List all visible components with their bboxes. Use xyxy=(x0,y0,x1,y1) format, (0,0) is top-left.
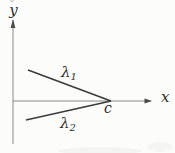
lambda2-subscript: 2 xyxy=(69,122,76,133)
figure-background xyxy=(0,0,175,153)
point-c-label: c xyxy=(104,100,112,116)
scan-smudge-corner xyxy=(147,142,173,152)
lambda1-subscript: 1 xyxy=(71,71,77,82)
x-axis-label: x xyxy=(161,88,170,106)
y-axis-label: y xyxy=(8,1,18,19)
lambda2-symbol: λ xyxy=(59,114,70,132)
lambda1-symbol: λ xyxy=(60,63,71,81)
figure-canvas: y x c λ1 λ2 xyxy=(0,0,175,153)
math-figure: y x c λ1 λ2 xyxy=(0,0,175,153)
